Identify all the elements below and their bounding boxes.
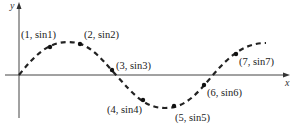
point-2-label: (2, sin2): [84, 29, 120, 41]
point-3-label: (3, sin3): [116, 60, 152, 72]
point-1-dot: [48, 45, 52, 49]
point-6-label: (6, sin6): [207, 87, 243, 99]
y-axis-arrow-icon: [17, 2, 22, 9]
point-2-dot: [78, 42, 82, 46]
sine-diagram: y x (1, sin1) (2, sin2) (3, sin3) (4, si…: [0, 0, 292, 124]
point-5-label: (5, sin5): [175, 112, 211, 124]
point-1-label: (1, sin1): [21, 29, 57, 41]
point-3-dot: [110, 68, 114, 72]
point-4-dot: [141, 98, 145, 102]
y-axis-label: y: [9, 0, 15, 11]
point-5-dot: [172, 104, 176, 108]
point-7-label: (7, sin7): [239, 56, 275, 68]
point-6-dot: [202, 83, 206, 87]
point-7-dot: [234, 52, 238, 56]
point-4-label: (4, sin4): [107, 104, 143, 116]
x-axis-label: x: [284, 77, 290, 88]
